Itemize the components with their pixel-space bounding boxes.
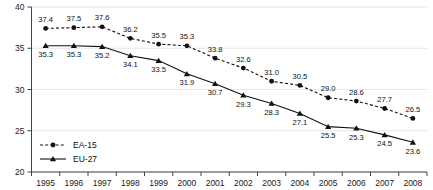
x-tick-label-2008: 2008: [403, 178, 422, 188]
value-label-eu-27-1998: 34.1: [123, 60, 138, 69]
value-label-ea-15-1996: 37.5: [66, 14, 81, 23]
value-label-eu-27-2004: 27.1: [292, 118, 307, 127]
value-label-ea-15-2002: 32.6: [236, 55, 251, 64]
x-tick-label-2001: 2001: [206, 178, 225, 188]
data-point-ea-15-1998: [128, 36, 133, 41]
value-label-ea-15-1997: 37.6: [95, 13, 110, 22]
data-point-ea-15-1997: [100, 24, 105, 29]
data-point-ea-15-2003: [269, 79, 274, 84]
value-label-eu-27-2003: 28.3: [264, 108, 279, 117]
value-label-ea-15-2001: 33.8: [208, 45, 223, 54]
data-point-ea-15-1999: [156, 42, 161, 47]
y-tick-label: 35: [15, 43, 25, 53]
data-point-ea-15-2000: [184, 43, 189, 48]
value-label-eu-27-2006: 25.3: [349, 133, 364, 142]
value-label-ea-15-1999: 35.5: [151, 31, 166, 40]
value-label-ea-15-2007: 27.7: [377, 95, 392, 104]
value-label-ea-15-2005: 29.0: [321, 84, 336, 93]
data-point-ea-15-1996: [71, 25, 76, 30]
value-label-ea-15-2006: 28.6: [349, 88, 364, 97]
chart-canvas: 2025303540 19951996199719981999200020012…: [0, 0, 433, 190]
data-point-ea-15-2004: [297, 83, 302, 88]
value-label-eu-27-2005: 25.5: [321, 131, 336, 140]
legend-label-eu-27: EU-27: [73, 154, 97, 164]
value-label-eu-27-2001: 30.7: [208, 88, 223, 97]
data-point-ea-15-2005: [326, 95, 331, 100]
data-point-ea-15-2001: [213, 56, 218, 61]
value-label-ea-15-2004: 30.5: [292, 72, 307, 81]
y-tick-label: 40: [15, 2, 25, 12]
line-chart: 2025303540 19951996199719981999200020012…: [0, 0, 433, 190]
value-label-eu-27-1996: 35.3: [66, 50, 81, 59]
legend-marker-ea-15: [51, 143, 56, 148]
legend-label-ea-15: EA-15: [73, 140, 97, 150]
x-tick-label-1995: 1995: [36, 178, 55, 188]
value-label-ea-15-2008: 26.5: [405, 105, 420, 114]
value-label-ea-15-1995: 37.4: [38, 15, 53, 24]
x-tick-label-1997: 1997: [93, 178, 112, 188]
data-point-ea-15-1995: [43, 26, 48, 31]
y-tick-label: 25: [15, 126, 25, 136]
data-point-ea-15-2007: [382, 106, 387, 111]
value-label-eu-27-2002: 29.3: [236, 100, 251, 109]
x-tick-label-1996: 1996: [64, 178, 83, 188]
x-tick-label-2007: 2007: [375, 178, 394, 188]
x-tick-label-2000: 2000: [177, 178, 196, 188]
value-label-ea-15-2000: 35.3: [179, 32, 194, 41]
value-label-ea-15-1998: 36.2: [123, 25, 138, 34]
x-tick-label-1999: 1999: [149, 178, 168, 188]
data-point-ea-15-2008: [410, 116, 415, 121]
x-tick-label-2006: 2006: [347, 178, 366, 188]
y-tick-label: 20: [15, 167, 25, 177]
value-label-eu-27-2007: 24.5: [377, 139, 392, 148]
value-label-eu-27-2000: 31.9: [179, 78, 194, 87]
value-label-eu-27-2008: 23.6: [405, 147, 420, 156]
data-point-ea-15-2002: [241, 66, 246, 71]
data-point-ea-15-2006: [354, 99, 359, 104]
value-label-eu-27-1995: 35.3: [38, 50, 53, 59]
x-tick-label-2005: 2005: [319, 178, 338, 188]
x-tick-label-2002: 2002: [234, 178, 253, 188]
value-label-eu-27-1997: 35.2: [95, 51, 110, 60]
y-tick-label: 30: [15, 85, 25, 95]
value-label-ea-15-2003: 31.0: [264, 68, 279, 77]
x-tick-label-2003: 2003: [262, 178, 281, 188]
x-tick-label-1998: 1998: [121, 178, 140, 188]
x-tick-label-2004: 2004: [290, 178, 309, 188]
value-label-eu-27-1999: 33.5: [151, 65, 166, 74]
